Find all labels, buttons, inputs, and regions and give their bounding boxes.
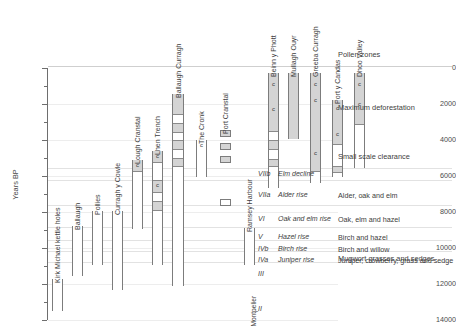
bar-segment <box>93 211 102 265</box>
phase-label: Maximum deforestation <box>338 103 415 112</box>
y-tick <box>42 104 47 105</box>
bar-segment-divider <box>333 172 342 173</box>
bar-segment <box>133 171 142 230</box>
site-label: Ramsey Harbour <box>246 179 253 232</box>
bar-segment <box>73 226 82 276</box>
y-tick-minor <box>44 158 47 159</box>
bar-segment <box>355 73 364 124</box>
vegetation-description: Oak, elm and hazel <box>338 215 400 224</box>
site-range-bar <box>288 73 299 140</box>
y-tick-label: 8000 <box>415 208 456 215</box>
site-range-bar <box>132 160 143 229</box>
bar-segment-divider <box>153 210 162 211</box>
bar-segment-divider <box>173 114 183 115</box>
pollen-zone-code: V <box>258 233 263 240</box>
y-axis-title: Years BP <box>11 150 20 220</box>
site-label: Curragh y Cowle <box>114 163 121 215</box>
site-range-bar <box>72 226 83 276</box>
bar-segment <box>153 162 162 179</box>
y-tick-label: 4000 <box>415 136 456 143</box>
bar-segment-divider <box>269 149 278 150</box>
bar-segment-divider <box>153 192 162 193</box>
y-tick-minor <box>44 302 47 303</box>
y-tick-minor <box>44 230 47 231</box>
site-label: Ballaugh Curragh <box>175 44 182 98</box>
y-tick-minor <box>44 122 47 123</box>
pollen-zones-header: Pollen zones <box>338 50 380 59</box>
pollen-zone-name: Alder rise <box>278 191 308 198</box>
site-range-bar <box>172 94 184 286</box>
bar-segment-divider <box>269 166 278 167</box>
gridline <box>48 284 338 285</box>
bar-segment-divider <box>173 140 183 141</box>
bar-segment <box>173 114 183 123</box>
pollen-zone-code: VI <box>258 215 265 222</box>
zone-boundary-rule <box>48 168 452 169</box>
bar-segment-divider <box>269 159 278 160</box>
bar-segment <box>173 166 183 286</box>
vegetation-description: Alder, oak and elm <box>338 191 398 200</box>
vegetation-description: Juniper, crowberry, grass and sedge <box>338 256 453 265</box>
site-label: Greeba Curragh <box>312 26 319 77</box>
pollen-zone-name: Hazel rise <box>278 233 309 240</box>
bar-segment-divider <box>153 201 162 202</box>
bar-segment-divider <box>153 180 162 181</box>
bar-segment-divider <box>173 149 183 150</box>
y-tick-label: 6000 <box>415 172 456 179</box>
site-label: Mullagh Ouyr <box>290 35 297 77</box>
bar-segment <box>53 279 62 311</box>
radiocarbon-date-marker: c <box>310 81 321 87</box>
bar-segment-divider <box>269 131 278 132</box>
vegetation-description: Birch and willow <box>338 245 390 254</box>
bar-segment <box>311 73 320 171</box>
y-tick <box>42 212 47 213</box>
radiocarbon-date-marker: c <box>152 182 163 188</box>
vegetation-description: Birch and hazel <box>338 233 388 242</box>
bar-segment <box>153 201 162 210</box>
site-label: Beinn y Phott <box>270 35 277 77</box>
pollen-zone-name: Birch rise <box>278 245 307 252</box>
y-tick-label: 14000 <box>415 316 456 323</box>
pollen-zone-code: VIIb <box>258 170 270 177</box>
y-tick <box>42 68 47 69</box>
site-label: The Cronk <box>198 111 205 144</box>
bar-segment <box>173 132 183 140</box>
gridline <box>48 320 338 321</box>
radiocarbon-date-marker: c <box>332 131 343 137</box>
side-label: Montpelier <box>251 296 258 327</box>
site-range-bar-box <box>220 143 231 150</box>
y-axis-spine <box>47 68 48 320</box>
bar-segment-divider <box>269 140 278 141</box>
site-range-bar <box>52 279 63 311</box>
bar-segment <box>153 210 162 265</box>
y-tick-minor <box>44 266 47 267</box>
site-label: Port Cranstal <box>222 93 229 134</box>
bar-segment <box>269 131 278 140</box>
site-label: Kirk Michael kettle holes <box>54 207 61 282</box>
bar-segment <box>153 192 162 201</box>
pollen-zone-code: IVb <box>258 245 269 252</box>
site-range-bar <box>244 228 255 265</box>
radiocarbon-date-marker: c <box>310 97 321 103</box>
site-label: Lhen Trench <box>154 116 161 155</box>
pollen-diagram-figure: 02000400060008000100001200014000 Years B… <box>0 0 456 334</box>
pollen-zone-code: III <box>258 270 264 277</box>
bar-segment-divider <box>173 123 183 124</box>
pollen-zone-code: II <box>258 305 262 312</box>
y-tick <box>42 320 47 321</box>
site-label: Pollies <box>94 194 101 215</box>
pollen-zone-code: VIIa <box>258 191 270 198</box>
site-range-bar <box>92 211 103 265</box>
y-tick-minor <box>44 86 47 87</box>
radiocarbon-date-marker: c <box>268 106 279 112</box>
pollen-zone-code: IVa <box>258 256 268 263</box>
site-label: Ballaugh <box>74 203 81 230</box>
site-label: Lough Cranstal <box>134 116 141 163</box>
bar-segment-divider <box>173 158 183 159</box>
y-tick-label: 10000 <box>415 244 456 251</box>
site-range-bar <box>112 211 123 290</box>
y-tick <box>42 140 47 141</box>
y-tick <box>42 248 47 249</box>
pollen-zone-name: Oak and elm rise <box>278 215 331 222</box>
site-label: Port y Candas <box>334 60 341 104</box>
